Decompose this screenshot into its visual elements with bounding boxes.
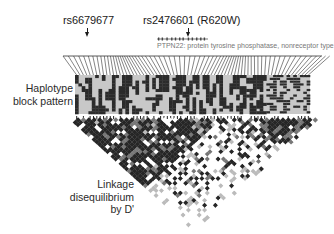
haplotype-cell: [250, 97, 254, 100]
haplotype-cell: [293, 106, 297, 108]
snp-connector: [118, 56, 124, 75]
snp-connector: [110, 56, 113, 75]
haplotype-cell: [172, 103, 176, 106]
haplotype-cell: [99, 100, 103, 103]
haplotype-cell: [182, 78, 186, 81]
haplotype-cell: [186, 86, 190, 89]
haplotype-cell: [240, 89, 244, 92]
gene-exon: [158, 38, 159, 41]
haplotype-cell: [236, 108, 240, 111]
haplotype-cell: [243, 75, 247, 78]
haplotype-cell: [213, 83, 217, 86]
haplotype-cell: [99, 108, 103, 111]
haplotype-cell: [293, 81, 297, 83]
haplotype-cell: [203, 81, 207, 84]
snp-connector: [135, 56, 147, 75]
haplotype-cell: [260, 83, 264, 86]
haplotype-cell: [193, 106, 197, 109]
haplotype-cell: [176, 78, 180, 81]
haplotype-cell: [159, 95, 163, 98]
haplotype-cell: [293, 83, 297, 85]
haplotype-cell: [273, 95, 277, 97]
haplotype-cell: [172, 106, 176, 109]
haplotype-cell: [290, 78, 294, 80]
haplotype-cell: [182, 75, 186, 78]
haplotype-cell: [159, 111, 163, 114]
haplotype-cell: [196, 78, 200, 81]
haplotype-cell: [243, 103, 247, 106]
haplotype-cell: [112, 78, 116, 81]
haplotype-cell: [172, 108, 176, 111]
haplotype-cell: [250, 78, 254, 81]
haplotype-cell: [213, 92, 217, 95]
haplotype-cell: [307, 100, 311, 102]
haplotype-cell: [186, 97, 190, 100]
snp-tick: [140, 116, 141, 119]
haplotype-cell: [122, 83, 126, 86]
haplotype-cell: [92, 106, 96, 109]
haplotype-cell: [85, 92, 89, 95]
haplotype-cell: [152, 86, 156, 89]
haplotype-cell: [176, 100, 180, 103]
haplotype-cell: [166, 86, 170, 89]
haplotype-cell: [203, 86, 207, 89]
haplotype-cell: [122, 89, 126, 92]
haplotype-cell: [112, 97, 116, 100]
haplotype-cell: [219, 100, 223, 103]
haplotype-cell: [283, 86, 287, 88]
snp-connector: [104, 56, 107, 75]
haplotype-cell: [99, 111, 103, 114]
haplotype-cell: [276, 100, 280, 102]
haplotype-cell: [156, 95, 160, 98]
haplotype-cell: [125, 83, 129, 86]
haplotype-cell: [169, 97, 173, 100]
haplotype-cell: [260, 89, 264, 92]
haplotype-cell: [253, 86, 257, 89]
haplotype-cell: [270, 106, 274, 108]
haplotype-cell: [266, 95, 270, 97]
snp-connector: [194, 56, 200, 75]
haplotype-cell: [273, 106, 277, 108]
haplotype-cell: [182, 83, 186, 86]
haplotype-cell: [253, 81, 257, 84]
haplotype-cell: [223, 106, 227, 109]
haplotype-cell: [280, 81, 284, 83]
haplotype-cell: [169, 103, 173, 106]
haplotype-cell: [172, 86, 176, 89]
haplotype-cell: [189, 111, 193, 114]
haplotype-cell: [135, 111, 139, 114]
snp-tick: [133, 116, 134, 119]
gene-structure: [157, 38, 208, 41]
haplotype-cell: [186, 95, 190, 98]
haplotype-cell: [102, 78, 106, 81]
haplotype-cell: [216, 78, 220, 81]
haplotype-cell: [99, 89, 103, 92]
haplotype-cell: [146, 111, 150, 114]
haplotype-cell: [256, 75, 260, 78]
haplotype-cell: [75, 103, 79, 106]
snp-connector: [201, 56, 209, 75]
haplotype-cell: [236, 75, 240, 78]
snp-tick: [113, 116, 114, 119]
haplotype-cell: [256, 106, 260, 109]
haplotype-cell: [85, 95, 89, 98]
haplotype-cell: [240, 86, 244, 89]
haplotype-cell: [176, 75, 180, 78]
snp-connector: [298, 56, 316, 75]
haplotype-cell: [186, 108, 190, 111]
haplotype-cell: [88, 86, 92, 89]
haplotype-cell: [203, 111, 207, 114]
haplotype-cell: [112, 81, 116, 84]
haplotype-cell: [129, 83, 133, 86]
haplotype-cell: [236, 83, 240, 86]
haplotype-cell: [270, 78, 274, 80]
haplotype-cell: [112, 103, 116, 106]
haplotype-cell: [82, 86, 86, 89]
snp-connector: [138, 56, 150, 75]
haplotype-cell: [95, 75, 99, 78]
haplotype-cell: [236, 97, 240, 100]
haplotype-cell: [75, 106, 79, 109]
haplotype-cell: [142, 81, 146, 84]
haplotype-cell: [92, 108, 96, 111]
haplotype-cell: [229, 103, 233, 106]
